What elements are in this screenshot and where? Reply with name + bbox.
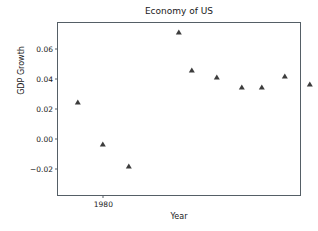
chart-figure: Economy of US −0.020.000.020.040.0619801… (0, 0, 318, 231)
scatter-points-layer (58, 23, 300, 195)
scatter-point (307, 82, 313, 87)
scatter-point (282, 74, 288, 79)
y-tick-label: −0.02 (30, 164, 58, 173)
scatter-point (239, 84, 245, 89)
chart-title: Economy of US (57, 6, 301, 16)
x-tick-label: 1980 (94, 195, 113, 209)
scatter-point (176, 30, 182, 35)
scatter-point (188, 67, 194, 72)
y-tick-label: 0.06 (36, 45, 58, 54)
plot-area: −0.020.000.020.040.061980199020002010202… (57, 22, 301, 196)
scatter-point (259, 84, 265, 89)
scatter-point (214, 74, 220, 79)
scatter-point (75, 99, 81, 104)
scatter-point (125, 164, 131, 169)
y-tick-label: 0.02 (36, 105, 58, 114)
scatter-point (100, 142, 106, 147)
y-tick-label: 0.00 (36, 134, 58, 143)
y-tick-label: 0.04 (36, 75, 58, 84)
x-axis-label: Year (57, 212, 301, 221)
y-axis-label: GDP Growth (17, 11, 26, 131)
